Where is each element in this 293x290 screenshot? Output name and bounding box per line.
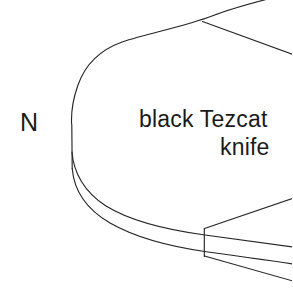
callout-label-line-2: knife (220, 133, 292, 161)
radial-line-upper-path (203, 22, 293, 58)
disc-bottom-outer-arc-path (72, 169, 292, 266)
radial-line-lower-upper-path (205, 196, 293, 229)
radial-line-lower-lower-path (205, 256, 293, 283)
point-label-n: N (20, 108, 38, 136)
diagram-canvas: N black Tezcat knife (0, 0, 292, 290)
disc-bottom-inner-arc-path (72, 152, 292, 248)
callout-label-line-1: black Tezcat (139, 105, 292, 133)
callout-label: black Tezcat knife (139, 105, 292, 161)
